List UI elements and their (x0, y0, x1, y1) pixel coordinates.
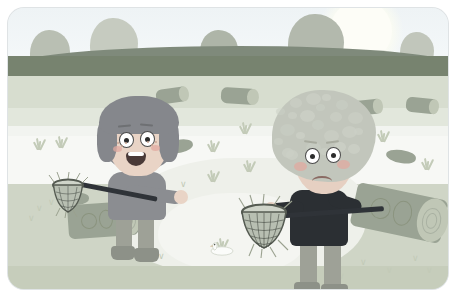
hair-curl (348, 144, 360, 154)
boy-cheek-right (337, 160, 350, 169)
girl-character (86, 96, 196, 266)
boy-leg-right (324, 240, 341, 288)
grass-1 (30, 136, 48, 150)
grass-6 (204, 168, 222, 182)
illustration-frame: ∨∨∨∨∨∨∨∨∨∨ (8, 8, 448, 289)
hair-curl (312, 120, 324, 130)
hair-curl (280, 124, 295, 136)
hair-curl (300, 110, 315, 122)
freckle (147, 141, 149, 143)
boy-mouth (312, 176, 332, 186)
freckle (155, 141, 157, 143)
grass-5 (240, 158, 258, 172)
log-bg-4 (405, 96, 438, 114)
freckle (117, 142, 119, 144)
grass-4 (236, 120, 254, 134)
boy-eye-left (305, 148, 320, 164)
hair-curl (330, 112, 342, 122)
boy-cheek-left (294, 162, 307, 171)
net-boy (236, 194, 298, 258)
grass-2 (52, 134, 70, 148)
freckle (121, 145, 123, 147)
boy-leg-left (300, 240, 317, 288)
freckle (125, 142, 127, 144)
boy-boot-right (321, 284, 348, 289)
grass-8 (418, 156, 436, 170)
ground-tick: ∨ (28, 214, 35, 223)
hair-curl (282, 148, 294, 158)
girl-hair-top (99, 96, 179, 134)
boy-boot-left (294, 282, 320, 289)
girl-teeth (128, 152, 144, 156)
net-girl (48, 172, 90, 218)
hair-curl (336, 100, 348, 110)
freckle (151, 144, 153, 146)
ground-tick: ∨ (36, 204, 43, 213)
girl-boot-left (111, 246, 135, 260)
girl-hand (174, 190, 188, 204)
hair-curl (342, 126, 357, 138)
log-bg-2 (220, 87, 257, 105)
illustration-stage: ∨∨∨∨∨∨∨∨∨∨ (0, 0, 456, 297)
duck-icon (206, 240, 236, 256)
hair-curl (290, 98, 302, 108)
ground-tick: ∨ (412, 254, 419, 263)
ground-tick: ∨ (426, 266, 433, 275)
hair-curl (348, 112, 363, 124)
boy-character (266, 90, 396, 289)
girl-boot-right (134, 248, 159, 262)
grass-3 (204, 138, 222, 152)
